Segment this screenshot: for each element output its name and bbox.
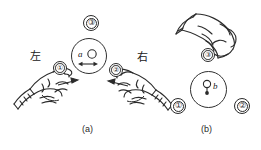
- left-hand: [12, 46, 88, 110]
- panel-b: ③ b ① ② (b): [160, 0, 261, 150]
- token-1-left-hand: ①: [53, 61, 67, 75]
- token-3-in-hand-label: ③: [203, 50, 213, 60]
- token-1-bottom-left-label: ①: [173, 101, 184, 112]
- panel-a: ③ a 左 右: [0, 0, 170, 150]
- token-2-right-hand: ②: [109, 63, 123, 77]
- token-1-left-hand-label: ①: [55, 63, 65, 73]
- caption-panel-b: (b): [201, 125, 212, 134]
- caption-panel-a: (a): [82, 125, 93, 134]
- pin-with-dot-icon: [201, 79, 213, 97]
- token-2-bottom-right-label: ②: [237, 101, 248, 112]
- token-2-right-hand-label: ②: [111, 65, 121, 75]
- token-2-bottom-right: ②: [234, 98, 250, 114]
- token-3-top-label: ③: [86, 18, 97, 29]
- token-3-in-hand: ③: [201, 48, 215, 62]
- disc-b-item-label: b: [213, 82, 218, 91]
- figure-container: ③ a 左 右: [0, 0, 261, 150]
- token-1-bottom-left: ①: [170, 98, 186, 114]
- token-3-top: ③: [83, 15, 99, 31]
